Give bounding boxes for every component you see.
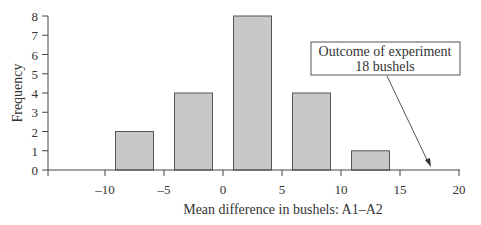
x-tick-label: 10 (335, 182, 348, 197)
annotation-arrow (387, 76, 429, 164)
x-tick-label: –5 (157, 182, 171, 197)
x-tick-label: 20 (453, 182, 466, 197)
y-tick-label: 2 (32, 125, 39, 140)
annotation-line-1: Outcome of experiment (319, 44, 452, 59)
x-ticks-group: –10–505101520 (48, 170, 466, 197)
y-ticks-group: 012345678 (32, 9, 49, 178)
y-tick-label: 0 (32, 163, 39, 178)
histogram-bar (293, 93, 331, 170)
histogram-bar (352, 151, 390, 170)
x-axis-label: Mean difference in bushels: A1–A2 (183, 202, 383, 217)
histogram-bar (234, 16, 272, 170)
x-tick-label: 5 (279, 182, 286, 197)
annotation-line-2: 18 bushels (355, 59, 415, 74)
y-tick-label: 5 (32, 67, 39, 82)
arrow-head-icon (425, 158, 431, 167)
bars-group (116, 16, 390, 170)
y-tick-label: 7 (32, 28, 39, 43)
y-tick-label: 4 (32, 86, 39, 101)
y-tick-label: 3 (32, 105, 39, 120)
y-tick-label: 8 (32, 9, 39, 24)
histogram-bar (116, 132, 154, 171)
histogram-chart: 012345678 –10–505101520 Frequency Mean d… (0, 0, 481, 225)
x-tick-label: –10 (94, 182, 115, 197)
annotation: Outcome of experiment 18 bushels (311, 42, 460, 167)
x-tick-label: 0 (220, 182, 227, 197)
histogram-bar (175, 93, 213, 170)
y-axis-label: Frequency (10, 63, 25, 122)
y-tick-label: 1 (32, 144, 39, 159)
x-tick-label: 15 (394, 182, 407, 197)
y-tick-label: 6 (32, 48, 39, 63)
